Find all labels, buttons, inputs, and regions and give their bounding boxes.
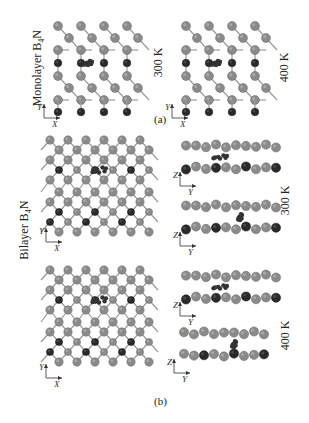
- label-sub: 4: [24, 209, 33, 213]
- temp-label-400k-a: 400 K: [277, 48, 292, 88]
- bilayer-400k-side-view-1: YZ: [180, 268, 280, 320]
- label-tail: N: [17, 201, 31, 210]
- label-tail: N: [30, 30, 44, 39]
- svg-text:Z: Z: [173, 230, 179, 240]
- bilayer-row-label: Bilayer B4N: [17, 185, 33, 275]
- svg-text:Y: Y: [188, 247, 194, 257]
- svg-text:Z: Z: [173, 170, 179, 180]
- bilayer-400k-side-view-2: YZ: [174, 325, 280, 377]
- bilayer-400k-top-view: XY: [44, 264, 159, 382]
- svg-text:Y: Y: [188, 187, 194, 197]
- svg-text:Z: Z: [173, 300, 179, 310]
- caption-b: (b): [154, 395, 167, 407]
- bilayer-300k-side-view-2: YZ: [180, 198, 280, 250]
- temp-label-300k-a: 300 K: [151, 43, 166, 83]
- monolayer-400k-structure: XY: [176, 18, 276, 113]
- svg-text:X: X: [53, 379, 60, 389]
- label-main: Monolayer B: [30, 43, 44, 107]
- svg-text:Y: Y: [39, 226, 45, 236]
- monolayer-300k-structure: XY: [48, 18, 148, 113]
- svg-text:X: X: [53, 243, 60, 253]
- bilayer-300k-top-view: XY: [44, 134, 159, 246]
- svg-text:Z: Z: [167, 357, 173, 367]
- label-sub: 4: [37, 39, 46, 43]
- bilayer-300k-side-view-1: YZ: [180, 138, 280, 190]
- label-main: Bilayer B: [17, 213, 31, 259]
- svg-text:Y: Y: [182, 374, 188, 384]
- svg-text:X: X: [51, 119, 58, 129]
- svg-text:X: X: [179, 119, 186, 129]
- caption-a: (a): [154, 113, 166, 125]
- svg-text:Y: Y: [39, 362, 45, 372]
- svg-text:Y: Y: [165, 102, 171, 112]
